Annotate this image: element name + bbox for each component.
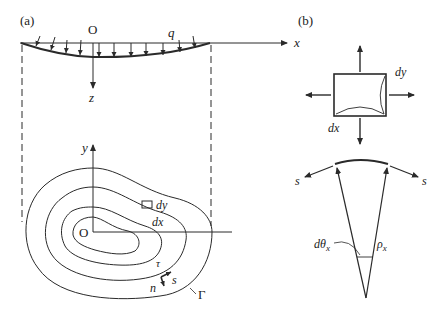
radius-left-arrow-icon xyxy=(337,168,366,298)
deflected-membrane xyxy=(21,43,210,57)
x-axis-label-section: x xyxy=(293,35,300,50)
origin-label-section: O xyxy=(88,22,97,37)
element-curve-bottom xyxy=(336,107,384,114)
panel-b: (b) dy dx s s dθx ρx xyxy=(295,13,427,298)
origin-label-plan: O xyxy=(79,225,88,240)
plan-view: y O dy dx τ s xyxy=(26,140,232,302)
s-right-label: s xyxy=(422,174,427,188)
element-dx-label: dx xyxy=(328,121,340,135)
tension-left-arrow-icon xyxy=(305,166,333,177)
membrane-diagram: (a) x O q xyxy=(0,0,445,313)
stress-element: dy dx xyxy=(306,46,414,144)
load-arrow-icon xyxy=(36,36,40,46)
tension-right-arrow-icon xyxy=(390,166,418,177)
tangent-label: τ xyxy=(156,257,161,269)
curvature-wedge: s s dθx ρx xyxy=(295,160,427,298)
element-dy-label: dy xyxy=(395,65,407,79)
contour-lines xyxy=(26,168,212,299)
boundary-label: Γ xyxy=(198,287,206,302)
boundary-contour xyxy=(26,168,212,299)
section-view: x O q z xyxy=(20,22,300,105)
load-arrow-icon xyxy=(80,40,81,55)
n-direction-arrow-icon xyxy=(161,277,164,286)
y-axis-label: y xyxy=(80,140,88,155)
s-left-label: s xyxy=(295,174,300,188)
panel-a-label: (a) xyxy=(20,13,34,28)
plan-dy-label: dy xyxy=(156,198,168,212)
load-label: q xyxy=(168,25,175,40)
z-axis-label: z xyxy=(88,90,94,105)
panel-b-label: (b) xyxy=(298,13,313,28)
curved-arc xyxy=(335,160,388,164)
contour-3 xyxy=(61,207,161,265)
radius-label: ρx xyxy=(376,237,387,253)
load-arrow-icon xyxy=(66,40,67,53)
angle-label: dθx xyxy=(314,237,330,253)
element-box xyxy=(334,74,386,116)
boundary-leader xyxy=(190,288,196,294)
load-arrow-icon xyxy=(193,36,195,48)
radius-right-arrow-icon xyxy=(366,168,387,298)
plan-dx-label: dx xyxy=(152,215,164,229)
s-label-plan: s xyxy=(172,273,177,287)
panel-a: (a) x O q xyxy=(20,13,300,302)
n-label-plan: n xyxy=(150,281,156,295)
element-curve-right xyxy=(380,76,385,114)
